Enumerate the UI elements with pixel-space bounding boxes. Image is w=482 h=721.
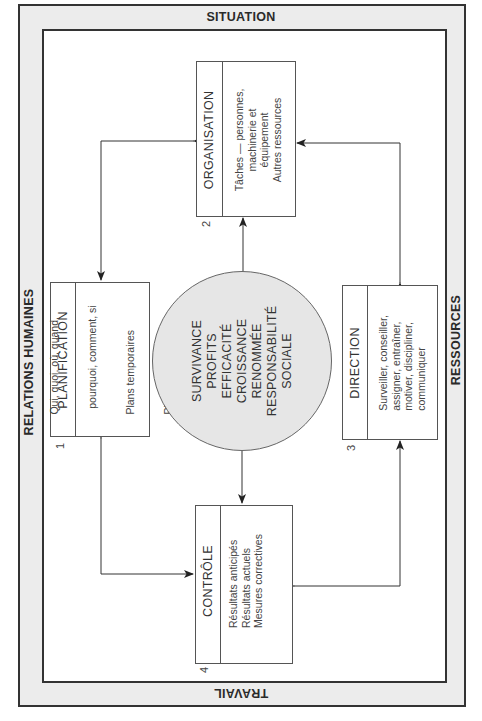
box-title: CONTRÔLE <box>201 545 215 617</box>
box-title: ORGANISATION <box>202 91 216 190</box>
box-body: Surveiller, conseiller, assigner, entraî… <box>377 315 427 411</box>
body-line: Résultats actuels <box>240 534 253 628</box>
goals-circle: SURVIVANCE PROFITS EFFICACITÉ CROISSANCE… <box>152 271 332 451</box>
box-divider <box>222 62 223 216</box>
body-line: assigner, entraîner, <box>389 315 402 411</box>
box-controle: CONTRÔLE Résultats anticipés Résultats a… <box>195 505 293 664</box>
box-body: Résultats anticipés Résultats actuels Me… <box>227 534 265 628</box>
box-title: DIRECTION <box>348 327 362 398</box>
body-line: Mesures correctives <box>252 534 265 628</box>
box-body: Tâches — personnes, machinerie et équipe… <box>233 89 283 192</box>
box-number-organisation: 2 <box>200 221 212 227</box>
body-line: machinerie et <box>245 89 258 192</box>
box-organisation: ORGANISATION Tâches — personnes, machine… <box>196 61 296 217</box>
goal-item: SOCIALE <box>280 306 295 416</box>
box-planification: PLANIFICATION Qui, quoi, où, quand, pour… <box>50 282 150 437</box>
box-number-planification: 1 <box>54 443 66 449</box>
goal-item: EFFICACITÉ <box>220 306 235 416</box>
box-divider <box>367 286 368 439</box>
box-divider <box>220 506 221 663</box>
body-line: Autres ressources <box>271 89 284 192</box>
box-direction: DIRECTION Surveiller, conseiller, assign… <box>342 285 438 440</box>
arrow-organisation-planification <box>101 141 194 280</box>
arrow-controle-direction <box>294 441 400 586</box>
body-line: équipement <box>258 89 271 192</box>
arrow-direction-organisation <box>297 143 400 283</box>
goals-list: SURVIVANCE PROFITS EFFICACITÉ CROISSANCE… <box>190 306 295 416</box>
body-line: pourquoi, comment, si <box>86 305 99 414</box>
body-line: communiquer <box>415 315 428 411</box>
box-number-direction: 3 <box>345 445 357 451</box>
goal-item: RESPONSABILITÉ <box>265 306 280 416</box>
goal-item: PROFITS <box>205 306 220 416</box>
body-line: Plans temporaires <box>124 305 137 414</box>
body-line: Résultats anticipés <box>227 534 240 628</box>
body-line: Tâches — personnes, <box>233 89 246 192</box>
goal-item: RENOMMÉE <box>250 306 265 416</box>
goal-item: CROISSANCE <box>235 306 250 416</box>
arrow-planification-controle <box>101 438 193 574</box>
body-line: motiver, discipliner, <box>402 315 415 411</box>
body-line: Qui, quoi, où, quand, <box>48 305 61 414</box>
goal-item: SURVIVANCE <box>190 306 205 416</box>
box-number-controle: 4 <box>198 667 210 673</box>
body-line: Surveiller, conseiller, <box>377 315 390 411</box>
